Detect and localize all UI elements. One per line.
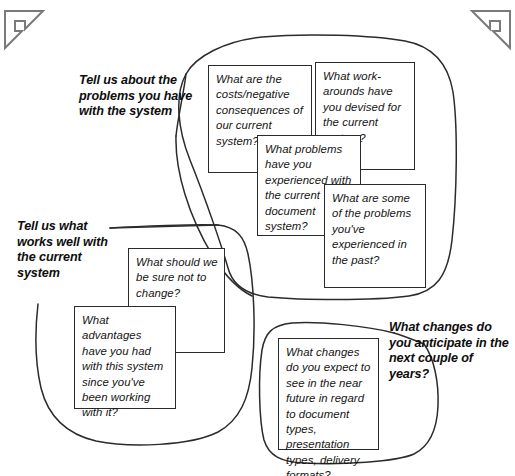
question-card-past-problems[interactable]: What are some of the problems you've exp… bbox=[324, 184, 426, 288]
question-card-advantages[interactable]: What advantages have you had with this s… bbox=[74, 306, 176, 409]
leader-line-works-well bbox=[110, 225, 218, 228]
diagram-canvas: Tell us about the problems you have with… bbox=[0, 0, 515, 476]
question-card-near-future[interactable]: What changes do you expect to see in the… bbox=[278, 338, 379, 450]
corner-bracket-icon-top-left bbox=[5, 11, 43, 48]
cluster-heading-works-well: Tell us what works well with the current… bbox=[17, 219, 121, 281]
cluster-heading-problems: Tell us about the problems you have with… bbox=[79, 73, 211, 120]
cluster-heading-changes: What changes do you anticipate in the ne… bbox=[389, 320, 509, 382]
corner-bracket-icon-top-right bbox=[472, 11, 510, 48]
